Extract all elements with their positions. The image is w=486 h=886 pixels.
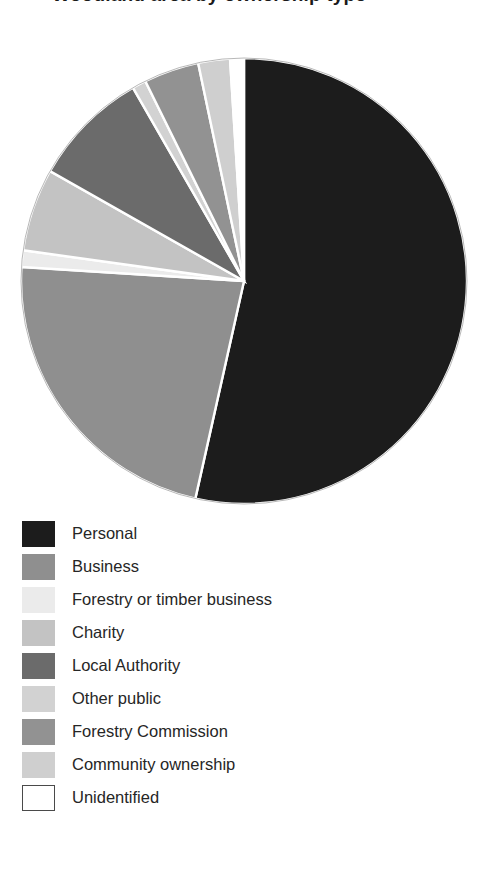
legend-item-unidentified[interactable]: Unidentified xyxy=(22,781,462,814)
legend-swatch-other-public xyxy=(22,686,55,712)
legend-item-community-ownership[interactable]: Community ownership xyxy=(22,748,462,781)
legend-item-personal[interactable]: Personal xyxy=(22,517,462,550)
legend-label-charity: Charity xyxy=(72,624,124,641)
legend-item-local-authority[interactable]: Local Authority xyxy=(22,649,462,682)
legend-label-community-ownership: Community ownership xyxy=(72,756,235,773)
pie-svg: Personal: 53.5%Business: 22.5%Forestry o… xyxy=(20,57,468,505)
chart-title-clip: Woodland area by ownership type xyxy=(0,0,486,14)
pie-chart-figure: Woodland area by ownership type Personal… xyxy=(0,0,486,886)
pie-slices: Personal: 53.5%Business: 22.5%Forestry o… xyxy=(21,58,467,504)
legend-swatch-charity xyxy=(22,620,55,646)
legend-item-charity[interactable]: Charity xyxy=(22,616,462,649)
pie-chart-area: Personal: 53.5%Business: 22.5%Forestry o… xyxy=(20,57,468,505)
legend-swatch-forestry-commission xyxy=(22,719,55,745)
legend-swatch-community-ownership xyxy=(22,752,55,778)
legend-label-personal: Personal xyxy=(72,525,137,542)
chart-legend: PersonalBusinessForestry or timber busin… xyxy=(22,517,462,814)
legend-label-forestry-commission: Forestry Commission xyxy=(72,723,228,740)
legend-swatch-business xyxy=(22,554,55,580)
legend-label-local-authority: Local Authority xyxy=(72,657,180,674)
chart-title: Woodland area by ownership type xyxy=(52,0,366,6)
legend-item-forestry-or-timber-business[interactable]: Forestry or timber business xyxy=(22,583,462,616)
legend-label-unidentified: Unidentified xyxy=(72,789,159,806)
legend-item-forestry-commission[interactable]: Forestry Commission xyxy=(22,715,462,748)
legend-item-other-public[interactable]: Other public xyxy=(22,682,462,715)
legend-label-business: Business xyxy=(72,558,139,575)
legend-label-other-public: Other public xyxy=(72,690,161,707)
legend-label-forestry-or-timber-business: Forestry or timber business xyxy=(72,591,272,608)
legend-swatch-local-authority xyxy=(22,653,55,679)
legend-swatch-personal xyxy=(22,521,55,547)
legend-swatch-unidentified xyxy=(22,785,55,811)
legend-swatch-forestry-or-timber-business xyxy=(22,587,55,613)
legend-item-business[interactable]: Business xyxy=(22,550,462,583)
